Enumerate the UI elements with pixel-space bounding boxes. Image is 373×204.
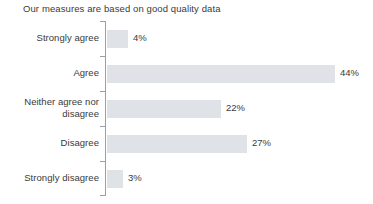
category-label: Strongly agree bbox=[0, 32, 99, 44]
bar-chart: Our measures are based on good quality d… bbox=[0, 0, 373, 204]
plot-area: Strongly agree 4% Agree 44% Neither agre… bbox=[0, 0, 373, 204]
category-label-line: Strongly disagree bbox=[0, 172, 99, 184]
category-label-line: Agree bbox=[0, 67, 99, 79]
bar-row: Neither agree nor disagree 22% bbox=[0, 91, 373, 126]
bar-value-label: 4% bbox=[133, 32, 147, 44]
bar-row: Strongly agree 4% bbox=[0, 21, 373, 56]
bar-value-label: 22% bbox=[226, 102, 245, 114]
bar bbox=[107, 135, 247, 153]
bar-value-label: 44% bbox=[340, 67, 359, 79]
category-label: Disagree bbox=[0, 137, 99, 149]
category-label: Neither agree nor disagree bbox=[0, 96, 99, 119]
bar-row: Agree 44% bbox=[0, 56, 373, 91]
bar bbox=[107, 170, 123, 188]
category-label-line: Disagree bbox=[0, 137, 99, 149]
bar bbox=[107, 30, 128, 48]
bar bbox=[107, 65, 335, 83]
bar-value-label: 27% bbox=[252, 137, 271, 149]
category-label: Agree bbox=[0, 67, 99, 79]
bar-row: Strongly disagree 3% bbox=[0, 161, 373, 196]
bar-row: Disagree 27% bbox=[0, 126, 373, 161]
category-label-line: Strongly agree bbox=[0, 32, 99, 44]
bar bbox=[107, 100, 221, 118]
category-label-line: Neither agree nor bbox=[0, 96, 99, 108]
bar-value-label: 3% bbox=[128, 172, 142, 184]
category-label-line: disagree bbox=[0, 108, 99, 120]
category-label: Strongly disagree bbox=[0, 172, 99, 184]
